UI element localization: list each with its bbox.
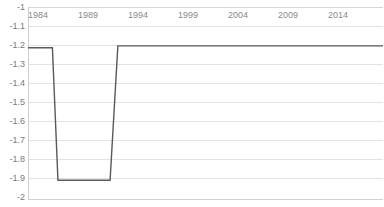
y-tick-label: -2: [17, 192, 25, 202]
y-tick-label: -1.7: [9, 135, 25, 145]
y-tick-label: -1.2: [9, 40, 25, 50]
line-chart: -1 -1.1 -1.2 -1.3 -1.4 -1.5 -1.6 -1.7 -1…: [0, 0, 384, 207]
x-tick-label: 1989: [78, 10, 98, 20]
y-tick-label: -1.1: [9, 21, 25, 31]
chart-container: -1 -1.1 -1.2 -1.3 -1.4 -1.5 -1.6 -1.7 -1…: [0, 0, 384, 207]
x-tick-label: 1994: [128, 10, 148, 20]
y-tick-label: -1.8: [9, 154, 25, 164]
x-tick-label: 2004: [228, 10, 248, 20]
x-tick-label: 1984: [28, 10, 48, 20]
x-tick-label: 2009: [278, 10, 298, 20]
y-tick-label: -1.9: [9, 173, 25, 183]
y-tick-label: -1.5: [9, 97, 25, 107]
y-tick-label: -1.3: [9, 59, 25, 69]
y-tick-label: -1: [17, 2, 25, 12]
y-axis-tick-labels: -1 -1.1 -1.2 -1.3 -1.4 -1.5 -1.6 -1.7 -1…: [9, 2, 25, 202]
x-tick-label: 2014: [328, 10, 348, 20]
plot-background: [28, 7, 383, 200]
x-tick-label: 1999: [178, 10, 198, 20]
y-tick-label: -1.6: [9, 116, 25, 126]
y-tick-label: -1.4: [9, 78, 25, 88]
